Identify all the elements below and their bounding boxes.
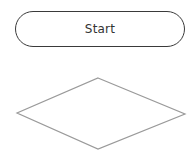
decision-diamond-shape[interactable] (17, 78, 185, 149)
decision-diamond-node[interactable] (0, 0, 195, 157)
